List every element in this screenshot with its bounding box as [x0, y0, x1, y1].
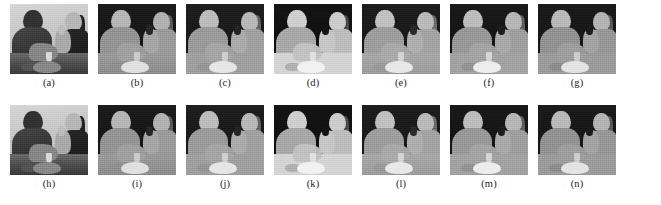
scene-left-person-arm [117, 144, 147, 162]
scene-left-person-arm [205, 144, 235, 162]
scene-left-person-arm [469, 144, 499, 162]
panel-i: (i) [98, 105, 176, 201]
panel-e-caption: (e) [362, 76, 440, 90]
panel-n-caption: (n) [538, 177, 616, 191]
panel-n: (n) [538, 105, 616, 201]
panel-i-image [98, 105, 176, 175]
scene-left-person-arm [29, 43, 59, 61]
scene-plate [209, 162, 237, 173]
panel-d-caption: (d) [274, 76, 352, 90]
panel-h-image [10, 105, 88, 175]
panel-l-image [362, 105, 440, 175]
panel-g-caption: (g) [538, 76, 616, 90]
scene-left-person-arm [557, 144, 587, 162]
figure-panel-grid: (a)(b)(c)(d)(e)(f)(g) (h)(i)(j)(k)(l)(m)… [0, 0, 661, 205]
panel-j-image [186, 105, 264, 175]
panel-f-image [450, 4, 528, 74]
scene-plate [561, 162, 589, 173]
scene-left-person-arm [29, 144, 59, 162]
panel-e-image [362, 4, 440, 74]
figure-row-bottom: (h)(i)(j)(k)(l)(m)(n) [0, 105, 661, 205]
panel-j-caption: (j) [186, 177, 264, 191]
panel-f-caption: (f) [450, 76, 528, 90]
figure-row-top: (a)(b)(c)(d)(e)(f)(g) [0, 4, 661, 104]
panel-h: (h) [10, 105, 88, 201]
scene-left-person-arm [205, 43, 235, 61]
scene-plate [297, 162, 325, 173]
panel-j: (j) [186, 105, 264, 201]
panel-m-image [450, 105, 528, 175]
panel-a: (a) [10, 4, 88, 100]
panel-i-caption: (i) [98, 177, 176, 191]
panel-k: (k) [274, 105, 352, 201]
panel-m-caption: (m) [450, 177, 528, 191]
panel-a-caption: (a) [10, 76, 88, 90]
panel-g: (g) [538, 4, 616, 100]
panel-e: (e) [362, 4, 440, 100]
scene-plate [121, 61, 149, 72]
scene-plate [121, 162, 149, 173]
panel-n-image [538, 105, 616, 175]
panel-b: (b) [98, 4, 176, 100]
panel-c-image [186, 4, 264, 74]
scene-left-person-arm [117, 43, 147, 61]
panel-c-caption: (c) [186, 76, 264, 90]
panel-d-image [274, 4, 352, 74]
panel-f: (f) [450, 4, 528, 100]
panel-a-image [10, 4, 88, 74]
panel-m: (m) [450, 105, 528, 201]
scene-left-person-arm [381, 144, 411, 162]
scene-left-person-arm [293, 144, 323, 162]
panel-l-caption: (l) [362, 177, 440, 191]
panel-k-image [274, 105, 352, 175]
scene-plate [473, 162, 501, 173]
scene-left-person-arm [293, 43, 323, 61]
scene-left-person-arm [469, 43, 499, 61]
panel-g-image [538, 4, 616, 74]
scene-plate [473, 61, 501, 72]
panel-k-caption: (k) [274, 177, 352, 191]
panel-h-caption: (h) [10, 177, 88, 191]
scene-plate [385, 162, 413, 173]
scene-plate [33, 61, 61, 72]
scene-left-person-arm [381, 43, 411, 61]
scene-left-person-arm [557, 43, 587, 61]
scene-plate [561, 61, 589, 72]
scene-plate [385, 61, 413, 72]
panel-d: (d) [274, 4, 352, 100]
panel-b-image [98, 4, 176, 74]
panel-c: (c) [186, 4, 264, 100]
panel-l: (l) [362, 105, 440, 201]
scene-plate [33, 162, 61, 173]
scene-plate [297, 61, 325, 72]
scene-plate [209, 61, 237, 72]
panel-b-caption: (b) [98, 76, 176, 90]
